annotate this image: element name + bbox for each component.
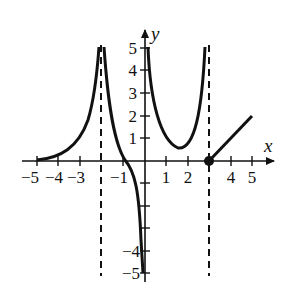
curve-middle-right-branch: [148, 47, 205, 148]
filled-point: [204, 156, 214, 166]
y-tick-label: 3: [129, 84, 138, 103]
graph-svg: −5 −4 −3 −1 1 2 4 5 5 4 3 2 1 −4 −5 x y: [0, 0, 292, 300]
y-tick-label: −4: [122, 242, 141, 261]
x-tick-label: −3: [67, 168, 85, 187]
x-tick-label: −4: [45, 168, 64, 187]
x-tick-label: −1: [110, 168, 128, 187]
ray-right: [209, 116, 252, 161]
x-tick-label: 1: [162, 168, 171, 187]
y-tick-label: 2: [129, 107, 138, 126]
y-axis-label: y: [149, 23, 160, 44]
y-tick-label: 5: [129, 39, 138, 58]
x-axis-label: x: [263, 135, 273, 156]
y-tick-label: 4: [129, 61, 138, 80]
x-tick-label: 4: [227, 168, 236, 187]
y-tick-label: −5: [122, 264, 140, 283]
x-tick-label: 5: [248, 168, 257, 187]
x-tick-label: 2: [184, 168, 193, 187]
x-tick-label: −5: [21, 168, 39, 187]
curve-middle-left-branch: [104, 47, 143, 273]
curve-left-branch: [37, 47, 99, 160]
function-graph: −5 −4 −3 −1 1 2 4 5 5 4 3 2 1 −4 −5 x y: [0, 0, 292, 300]
y-tick-label: 1: [129, 129, 138, 148]
